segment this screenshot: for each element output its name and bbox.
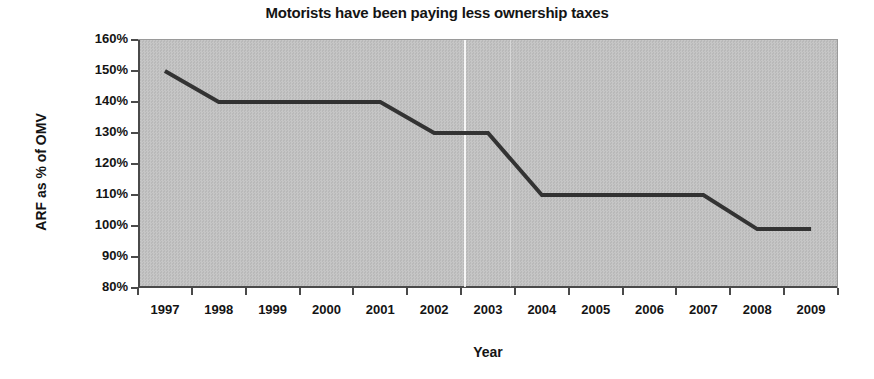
chart-figure: Motorists have been paying less ownershi… <box>0 0 874 379</box>
y-axis-tick <box>131 39 138 41</box>
x-axis-label: 2009 <box>784 302 838 317</box>
x-axis-label: 2008 <box>730 302 784 317</box>
y-axis-label: 110% <box>72 186 128 201</box>
y-axis-tick <box>131 225 138 227</box>
x-axis-tick <box>675 288 677 295</box>
x-axis-label: 2002 <box>407 302 461 317</box>
x-axis-label: 1998 <box>192 302 246 317</box>
y-axis-label: 120% <box>72 155 128 170</box>
y-axis-label: 140% <box>72 93 128 108</box>
y-axis-tick <box>131 163 138 165</box>
y-axis-label: 80% <box>72 279 128 294</box>
x-axis-label: 2005 <box>569 302 623 317</box>
x-axis-title: Year <box>138 344 838 360</box>
y-axis-tick <box>131 256 138 258</box>
y-axis-label: 90% <box>72 248 128 263</box>
y-axis-title: ARF as % of OMV <box>33 52 49 292</box>
x-axis-tick <box>191 288 193 295</box>
x-axis-tick <box>514 288 516 295</box>
x-axis-label: 1997 <box>138 302 192 317</box>
y-axis-label: 100% <box>72 217 128 232</box>
x-axis-tick <box>406 288 408 295</box>
x-axis-label: 2004 <box>515 302 569 317</box>
x-axis-tick <box>137 288 139 295</box>
x-axis-tick <box>783 288 785 295</box>
y-axis-tick <box>131 132 138 134</box>
x-axis-tick <box>622 288 624 295</box>
x-axis-tick <box>568 288 570 295</box>
y-axis-label: 130% <box>72 124 128 139</box>
x-axis-label: 2006 <box>623 302 677 317</box>
x-axis-tick <box>245 288 247 295</box>
data-series-line <box>138 40 838 288</box>
x-axis-label: 2001 <box>353 302 407 317</box>
x-axis-label: 1999 <box>246 302 300 317</box>
y-axis-tick <box>131 194 138 196</box>
y-axis-label: 150% <box>72 62 128 77</box>
x-axis-label: 2003 <box>461 302 515 317</box>
x-axis-tick <box>729 288 731 295</box>
y-axis-label: 160% <box>72 31 128 46</box>
x-axis-tick <box>460 288 462 295</box>
y-axis-tick <box>131 70 138 72</box>
y-axis-tick <box>131 101 138 103</box>
x-axis-tick <box>299 288 301 295</box>
x-axis-tick <box>837 288 839 295</box>
x-axis-label: 2000 <box>299 302 353 317</box>
x-axis-label: 2007 <box>676 302 730 317</box>
chart-title: Motorists have been paying less ownershi… <box>0 4 874 21</box>
x-axis-tick <box>352 288 354 295</box>
